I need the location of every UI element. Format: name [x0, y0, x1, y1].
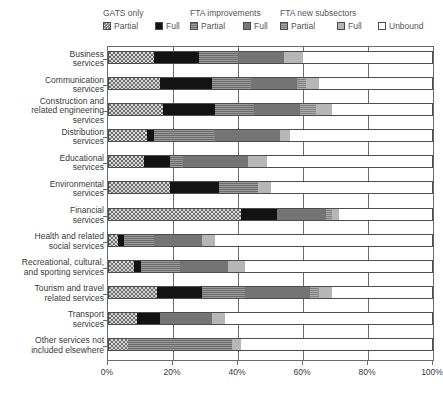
bar-segment-fta-imp-full[interactable] [277, 208, 326, 221]
bar-segment-fta-new-full[interactable] [248, 155, 268, 168]
bar-segment-fta-imp-partial[interactable] [124, 234, 153, 247]
stacked-bar[interactable] [108, 129, 433, 142]
legend-group-title-fta-improvements: FTA improvements [190, 8, 261, 18]
stacked-bar[interactable] [108, 51, 433, 64]
bar-segment-fta-new-full[interactable] [228, 260, 244, 273]
bar-segment-gats-full[interactable] [157, 286, 203, 299]
x-axis-tick [107, 361, 108, 365]
bar-segment-unbound[interactable] [303, 51, 433, 64]
legend-item-unbound[interactable]: Unbound [378, 21, 424, 31]
bar-segment-gats-full[interactable] [137, 312, 160, 325]
bar-segment-unbound[interactable] [332, 103, 433, 116]
bar-segment-unbound[interactable] [225, 312, 433, 325]
bar-segment-fta-new-full[interactable] [319, 286, 332, 299]
bar-segment-gats-partial[interactable] [108, 286, 157, 299]
bar-segment-gats-partial[interactable] [108, 338, 128, 351]
bar-segment-fta-imp-full[interactable] [180, 260, 229, 273]
bar-segment-fta-new-partial[interactable] [297, 77, 307, 90]
bar-segment-unbound[interactable] [339, 208, 433, 221]
bar-segment-fta-imp-partial[interactable] [219, 181, 258, 194]
bar-segment-unbound[interactable] [267, 155, 433, 168]
bar-segment-gats-partial[interactable] [108, 208, 241, 221]
stacked-bar[interactable] [108, 181, 433, 194]
bar-segment-unbound[interactable] [319, 77, 433, 90]
bar-segment-gats-full[interactable] [163, 103, 215, 116]
bar-segment-fta-imp-full[interactable] [251, 77, 297, 90]
bar-segment-fta-new-full[interactable] [316, 103, 332, 116]
bar-segment-gats-full[interactable] [170, 181, 219, 194]
bar-segment-gats-partial[interactable] [108, 181, 170, 194]
legend-swatch-unbound-icon [378, 22, 386, 30]
legend-item-fta-new-subsectors-partial[interactable]: Partial [280, 21, 315, 31]
bar-segment-gats-partial[interactable] [108, 260, 134, 273]
legend-item-gats-full[interactable]: Full [155, 21, 180, 31]
bar-segment-fta-new-full[interactable] [212, 312, 225, 325]
legend-item-gats-partial[interactable]: Partial [103, 21, 138, 31]
bar-segment-gats-full[interactable] [160, 77, 212, 90]
bar-segment-fta-imp-full[interactable] [183, 155, 248, 168]
stacked-bar[interactable] [108, 208, 433, 221]
bar-segment-fta-imp-partial[interactable] [170, 155, 183, 168]
bar-segment-fta-imp-full[interactable] [245, 286, 310, 299]
bar-row [108, 308, 433, 334]
stacked-bar[interactable] [108, 103, 433, 116]
legend-label-fta-improvements-full: Full [254, 21, 268, 31]
bar-segment-fta-new-full[interactable] [258, 181, 271, 194]
stacked-bar[interactable] [108, 286, 433, 299]
bar-segment-gats-partial[interactable] [108, 103, 163, 116]
stacked-bar[interactable] [108, 155, 433, 168]
legend-item-fta-new-subsectors-full[interactable]: Full [337, 21, 362, 31]
chart-container: GATS only FTA improvements FTA new subse… [0, 0, 443, 399]
bar-row [108, 125, 433, 151]
bar-segment-gats-partial[interactable] [108, 312, 137, 325]
bar-segment-fta-imp-partial[interactable] [215, 103, 254, 116]
bar-segment-fta-imp-full[interactable] [160, 312, 212, 325]
bar-segment-gats-full[interactable] [144, 155, 170, 168]
bar-segment-unbound[interactable] [271, 181, 434, 194]
bar-segment-fta-new-full[interactable] [202, 234, 215, 247]
legend-label-gats-partial: Partial [114, 21, 138, 31]
x-axis-tick-label: 80% [358, 367, 375, 377]
stacked-bar[interactable] [108, 260, 433, 273]
y-axis-label: Other services notincluded elsewhere [1, 336, 104, 355]
bar-segment-fta-imp-partial[interactable] [199, 51, 238, 64]
bar-segment-gats-partial[interactable] [108, 155, 144, 168]
bar-segment-gats-partial[interactable] [108, 77, 160, 90]
stacked-bar[interactable] [108, 77, 433, 90]
bar-segment-fta-new-full[interactable] [306, 77, 319, 90]
bar-segment-fta-imp-full[interactable] [154, 234, 203, 247]
bar-segment-gats-full[interactable] [154, 51, 200, 64]
bar-segment-fta-new-partial[interactable] [300, 103, 316, 116]
bar-segment-unbound[interactable] [245, 260, 434, 273]
chart-legend: GATS only FTA improvements FTA new subse… [0, 8, 443, 42]
x-axis: 0%20%40%60%80%100% [107, 361, 434, 387]
bar-segment-unbound[interactable] [332, 286, 433, 299]
bar-segment-fta-imp-partial[interactable] [202, 286, 244, 299]
bar-segment-unbound[interactable] [241, 338, 433, 351]
stacked-bar[interactable] [108, 312, 433, 325]
bar-segment-gats-full[interactable] [241, 208, 277, 221]
legend-item-fta-improvements-full[interactable]: Full [243, 21, 268, 31]
bar-segment-fta-imp-full[interactable] [215, 129, 280, 142]
bar-segment-fta-imp-partial[interactable] [128, 338, 232, 351]
bar-segment-fta-imp-partial[interactable] [212, 77, 251, 90]
y-axis-label: Environmentalservices [1, 180, 104, 199]
bar-segment-gats-partial[interactable] [108, 129, 147, 142]
bar-segment-fta-imp-full[interactable] [254, 103, 300, 116]
legend-swatch-fta-improvements-full-icon [243, 22, 251, 30]
legend-item-fta-improvements-partial[interactable]: Partial [190, 21, 225, 31]
stacked-bar[interactable] [108, 338, 433, 351]
bar-segment-gats-partial[interactable] [108, 51, 154, 64]
bar-segment-fta-imp-full[interactable] [238, 51, 284, 64]
bar-segment-fta-new-partial[interactable] [310, 286, 320, 299]
stacked-bar[interactable] [108, 234, 433, 247]
bar-segment-fta-new-full[interactable] [284, 51, 304, 64]
bar-segment-fta-imp-partial[interactable] [141, 260, 180, 273]
bar-segment-fta-new-full[interactable] [232, 338, 242, 351]
bar-row [108, 99, 433, 125]
bar-segment-unbound[interactable] [215, 234, 433, 247]
bar-segment-fta-imp-partial[interactable] [154, 129, 216, 142]
bar-segment-fta-new-full[interactable] [280, 129, 290, 142]
bar-segment-unbound[interactable] [290, 129, 433, 142]
bar-segment-gats-partial[interactable] [108, 234, 118, 247]
